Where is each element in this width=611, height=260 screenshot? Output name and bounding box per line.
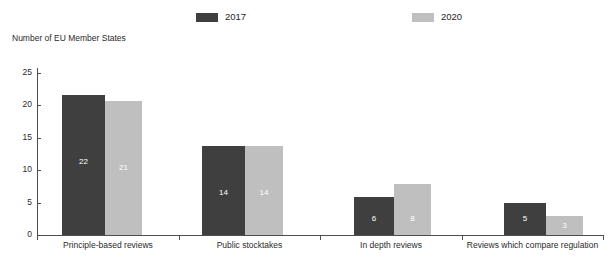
x-tick-mark-4 bbox=[603, 236, 604, 240]
bar-2020-reviews-which-compare-regulation[interactable]: 3 bbox=[546, 216, 583, 235]
chart-legend: 2017 2020 bbox=[0, 8, 611, 26]
legend-label-2017: 2017 bbox=[225, 12, 246, 22]
chart-subtitle: Number of EU Member States bbox=[12, 33, 126, 44]
plot-area: 22 21 14 14 6 8 5 3 bbox=[37, 68, 604, 235]
bar-2020-public-stocktakes[interactable]: 14 bbox=[245, 146, 283, 235]
x-tick-label-reviews-which-compare-regulation: Reviews which compare regulation bbox=[462, 240, 603, 251]
y-tick-label-15: 15 bbox=[8, 133, 32, 142]
y-tick-label-5: 5 bbox=[8, 198, 32, 207]
bar-value-label: 8 bbox=[394, 214, 431, 223]
bar-value-label: 5 bbox=[504, 214, 546, 223]
bar-2017-principle-based-reviews[interactable]: 22 bbox=[62, 95, 105, 235]
legend-item-2017: 2017 bbox=[196, 10, 246, 24]
y-tick-label-25: 25 bbox=[8, 68, 32, 77]
legend-swatch-2017 bbox=[196, 13, 218, 22]
bar-value-label: 14 bbox=[202, 188, 245, 197]
x-tick-label-in-depth-reviews: In depth reviews bbox=[320, 240, 462, 251]
x-tick-label-principle-based-reviews: Principle-based reviews bbox=[37, 240, 179, 251]
y-tick-label-0: 0 bbox=[8, 230, 32, 239]
bar-value-label: 14 bbox=[245, 188, 283, 197]
legend-swatch-2020 bbox=[412, 13, 434, 22]
bar-2017-public-stocktakes[interactable]: 14 bbox=[202, 146, 245, 235]
bar-2020-principle-based-reviews[interactable]: 21 bbox=[105, 101, 142, 235]
bar-2017-in-depth-reviews[interactable]: 6 bbox=[354, 197, 394, 235]
bar-value-label: 21 bbox=[105, 163, 142, 172]
bar-value-label: 22 bbox=[62, 157, 105, 166]
legend-label-2020: 2020 bbox=[441, 12, 462, 22]
bar-2017-reviews-which-compare-regulation[interactable]: 5 bbox=[504, 203, 546, 235]
bar-value-label: 3 bbox=[546, 221, 583, 230]
y-tick-label-10: 10 bbox=[8, 165, 32, 174]
y-tick-label-20: 20 bbox=[8, 100, 32, 109]
legend-item-2020: 2020 bbox=[412, 10, 462, 24]
bar-2020-in-depth-reviews[interactable]: 8 bbox=[394, 184, 431, 235]
bar-chart-figure: 2017 2020 Number of EU Member States 25 … bbox=[0, 0, 611, 260]
bar-value-label: 6 bbox=[354, 214, 394, 223]
x-tick-label-public-stocktakes: Public stocktakes bbox=[179, 240, 320, 251]
